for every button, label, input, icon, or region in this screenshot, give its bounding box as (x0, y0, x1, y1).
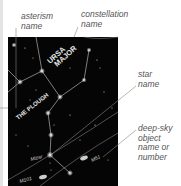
object-labels: Mizar M101 M51 (19, 153, 102, 184)
star-map-drawing: URSA MAJOR THE PLOUGH Mizar M101 M51 (0, 0, 181, 186)
map-labels: URSA MAJOR THE PLOUGH (15, 43, 79, 121)
asterism-name: THE PLOUGH (15, 92, 50, 121)
object-label-m101: M101 (19, 175, 33, 184)
object-label-m51: M51 (90, 153, 102, 163)
